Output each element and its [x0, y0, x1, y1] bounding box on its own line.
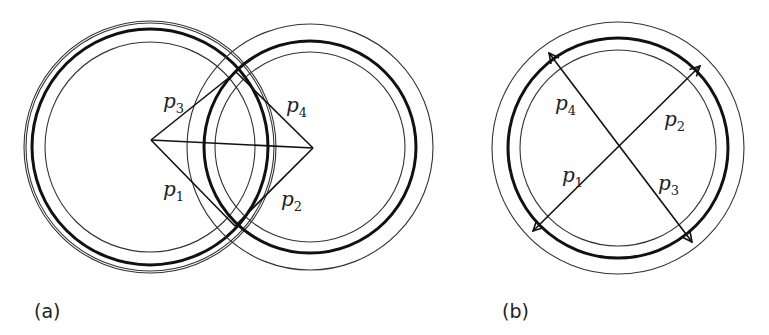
- left-thick-ring: [32, 29, 268, 265]
- caption-b: (b): [502, 300, 529, 322]
- center-line: [151, 140, 313, 148]
- caption-a: (a): [34, 300, 60, 322]
- panel-b: p4 p2 p1 p3: [492, 22, 744, 274]
- left-inner-ring: [45, 42, 255, 252]
- left-outer-ring: [24, 21, 276, 273]
- label-b-p4: p4: [555, 91, 576, 118]
- label-b-p3: p3: [658, 171, 679, 198]
- arrow-p4-p3: [549, 53, 692, 242]
- left-outer-ring-2: [26, 23, 274, 271]
- right-ring-set: [187, 24, 433, 270]
- label-a-p4: p4: [286, 93, 307, 120]
- label-b-p1: p1: [562, 163, 583, 190]
- figure-canvas: p3 p4 p1 p2 p4 p2 p1 p3: [0, 0, 769, 335]
- label-b-p2: p2: [664, 107, 685, 134]
- right-outer-ring: [187, 24, 433, 270]
- label-a-p3: p3: [163, 89, 184, 116]
- left-ring-set: [24, 21, 276, 273]
- label-a-p2: p2: [281, 187, 302, 214]
- label-a-p1: p1: [163, 177, 184, 204]
- crossing-arrows: [533, 53, 700, 242]
- panel-a: p3 p4 p1 p2: [24, 21, 433, 273]
